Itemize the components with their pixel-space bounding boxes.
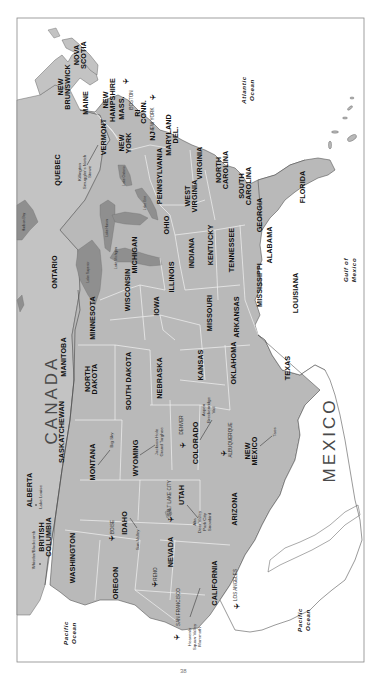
state-label-wyoming: WYOMING bbox=[131, 439, 140, 476]
airplane-icon: ✈ bbox=[180, 441, 187, 450]
country-label-mexico: MEXICO bbox=[320, 397, 339, 482]
svg-text:Sun Valley: Sun Valley bbox=[135, 529, 140, 550]
lake-label-huron: Lake Huron bbox=[105, 219, 109, 237]
state-label-oklahoma: OKLAHOMA bbox=[229, 341, 238, 384]
state-label-iowa: IOWA bbox=[152, 296, 161, 316]
svg-text:SAN FRANCISCO: SAN FRANCISCO bbox=[176, 588, 181, 626]
ocean-label-gulf: Gulf of Mexico bbox=[342, 258, 357, 283]
svg-text:ALBUQUERQUE: ALBUQUERQUE bbox=[228, 422, 233, 457]
state-label-washington: WASHINGTON bbox=[68, 533, 77, 583]
svg-text:Lake Louise: Lake Louise bbox=[38, 485, 43, 509]
province-label-saskatchewan: SASKATCHEWAN bbox=[57, 401, 66, 463]
state-label-kentucky: KENTUCKY bbox=[206, 225, 215, 266]
svg-text:COLUMBIA: COLUMBIA bbox=[44, 517, 53, 557]
svg-text:SCOTIA: SCOTIA bbox=[79, 41, 88, 69]
state-label-michigan: MICHIGAN bbox=[130, 236, 139, 273]
state-label-mass: MASS. bbox=[117, 96, 126, 119]
state-label-montana: MONTANA bbox=[88, 444, 97, 481]
state-label-colorado: COLORADO bbox=[191, 421, 200, 464]
lake-label-superior: Lake Superior bbox=[86, 261, 90, 283]
airplane-icon: ✈ bbox=[221, 449, 228, 458]
svg-text:BRUNSWICK: BRUNSWICK bbox=[63, 63, 72, 109]
svg-text:DENVER: DENVER bbox=[179, 415, 184, 435]
state-label-missouri: MISSOURI bbox=[205, 295, 214, 331]
state-label-alabama: ALABAMA bbox=[265, 226, 274, 263]
svg-text:LOS ANGELES: LOS ANGELES bbox=[233, 569, 238, 601]
svg-text:MEXICO: MEXICO bbox=[250, 436, 259, 465]
state-label-idaho: IDAHO bbox=[120, 511, 129, 535]
svg-text:YORK: YORK bbox=[124, 132, 133, 154]
svg-text:Stowe: Stowe bbox=[87, 165, 92, 178]
state-label-conn: CONN. bbox=[139, 100, 148, 124]
svg-text:Taos: Taos bbox=[272, 427, 277, 437]
state-label-wisconsin: WISCONSIN bbox=[123, 269, 132, 311]
svg-text:DEL.: DEL. bbox=[171, 127, 180, 144]
state-label-vermont: VERMONT bbox=[99, 118, 108, 155]
state-label-nebraska: NEBRASKA bbox=[155, 357, 164, 399]
state-label-south-dakota: SOUTH DAKOTA bbox=[124, 352, 133, 411]
state-label-texas: TEXAS bbox=[283, 356, 292, 381]
state-label-florida: FLORIDA bbox=[298, 171, 307, 204]
lake-label-michigan: Lake Michigan bbox=[114, 247, 118, 269]
svg-text:RENO: RENO bbox=[153, 567, 158, 581]
svg-text:Mammoth: Mammoth bbox=[197, 627, 202, 647]
svg-text:Whistler/Blackcomb: Whistler/Blackcomb bbox=[31, 530, 36, 569]
airplane-icon: ✈ bbox=[234, 602, 241, 611]
state-label-indiana: INDIANA bbox=[187, 238, 196, 269]
ocean-label-pacific-north: Pacific Ocean bbox=[62, 621, 77, 645]
state-label-mississippi: MISSISSIPPI bbox=[255, 263, 264, 307]
lake-label-ontario: Lake Ontario bbox=[122, 166, 126, 186]
lake-label-hudson: Hudson Bay bbox=[22, 212, 26, 231]
state-label-utah: UTAH bbox=[177, 485, 186, 505]
state-label-oregon: OREGON bbox=[111, 567, 120, 600]
svg-text:Pacific: Pacific bbox=[296, 608, 303, 632]
state-label-louisiana: LOUISIANA bbox=[291, 273, 300, 313]
ocean-label-atlantic: Atlantic Ocean bbox=[240, 76, 255, 105]
airport-reno: ✈ RENO bbox=[152, 567, 159, 589]
svg-text:HAMPSHIRE: HAMPSHIRE bbox=[108, 78, 117, 122]
state-label-tennessee: TENNESSEE bbox=[227, 228, 236, 273]
province-label-british-columbia: BRITISH COLUMBIA bbox=[37, 517, 53, 557]
state-label-georgia: GEORGIA bbox=[255, 198, 264, 233]
svg-text:Vail: Vail bbox=[211, 406, 216, 413]
state-label-illinois: ILLINOIS bbox=[167, 261, 176, 292]
svg-text:Atlantic: Atlantic bbox=[240, 76, 247, 105]
state-label-nevada: NEVADA bbox=[166, 537, 175, 567]
state-label-arizona: ARIZONA bbox=[230, 492, 239, 525]
province-label-quebec: QUEBEC bbox=[53, 154, 62, 185]
airplane-icon: ✈ bbox=[109, 534, 116, 543]
svg-text:CAROLINA: CAROLINA bbox=[244, 167, 253, 206]
state-label-kansas: KANSAS bbox=[196, 349, 205, 380]
province-label-nova-scotia: NOVA SCOTIA bbox=[72, 41, 88, 69]
svg-text:CAROLINA: CAROLINA bbox=[221, 151, 230, 190]
svg-text:Mexico: Mexico bbox=[350, 258, 357, 283]
page-number: 38 bbox=[180, 668, 187, 674]
map: CANADA MEXICO Atlantic Ocean Gulf of Mex… bbox=[0, 0, 381, 679]
state-label-north-dakota: NORTH DAKOTA bbox=[83, 364, 99, 395]
svg-text:Big Sky: Big Sky bbox=[109, 432, 114, 448]
state-label-ohio: OHIO bbox=[162, 215, 171, 234]
state-label-minnesota: MINNESOTA bbox=[88, 296, 97, 340]
svg-text:DAKOTA: DAKOTA bbox=[90, 364, 99, 395]
airplane-icon: ✈ bbox=[123, 77, 130, 86]
state-label-new-york: NEW YORK bbox=[117, 132, 133, 154]
state-label-california: CALIFORNIA bbox=[210, 560, 219, 605]
lake-label-erie: Lake Erie bbox=[143, 196, 147, 210]
province-label-alberta: ALBERTA bbox=[25, 473, 34, 508]
svg-text:Ocean: Ocean bbox=[248, 79, 255, 101]
svg-text:BOISE: BOISE bbox=[110, 520, 115, 534]
svg-text:SALT LAKE CITY: SALT LAKE CITY bbox=[167, 480, 172, 516]
svg-text:BOSTON: BOSTON bbox=[129, 90, 134, 109]
svg-text:Gulf of: Gulf of bbox=[342, 258, 349, 282]
state-label-pennsylvania: PENNSYLVANIA bbox=[155, 148, 164, 204]
state-label-maine: MAINE bbox=[81, 91, 90, 115]
ocean-label-pacific-south: Pacific Ocean bbox=[296, 608, 311, 632]
svg-text:VIRGINIA: VIRGINIA bbox=[190, 180, 199, 213]
airplane-icon: ✈ bbox=[150, 93, 157, 102]
svg-text:Pacific: Pacific bbox=[62, 621, 69, 645]
svg-text:Ocean: Ocean bbox=[70, 622, 77, 644]
svg-text:NEW YORK: NEW YORK bbox=[150, 107, 155, 133]
province-label-ontario: ONTARIO bbox=[50, 255, 59, 289]
svg-text:Snowbird: Snowbird bbox=[207, 512, 212, 531]
state-label-virginia: VIRGINIA bbox=[195, 147, 204, 180]
